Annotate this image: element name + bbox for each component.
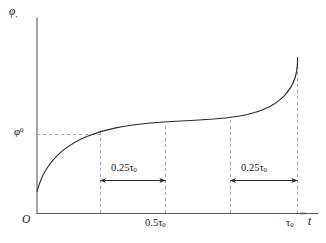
y-axis-title: φ, <box>9 6 17 19</box>
y-axis-title-sub: , <box>15 11 17 19</box>
y-tick-phi0-sup: 0 <box>20 126 23 133</box>
x-tick-half-sub: 0 <box>162 221 165 228</box>
span-label-1-base: 0.25τ <box>111 162 134 173</box>
guide-lines <box>37 57 298 213</box>
plot-canvas <box>0 0 326 243</box>
x-tick-label-half-tau0: 0.5τ0 <box>145 218 166 229</box>
figure-root: φ, φ0 O 0.5τ0 τ0 t 0.25τ0 0.25τ0 <box>0 0 326 243</box>
x-tick-label-tau0: τ0 <box>286 218 294 229</box>
x-tick-half-base: 0.5τ <box>145 217 162 228</box>
span-label-first-quarter: 0.25τ0 <box>111 163 137 174</box>
span-label-last-quarter: 0.25τ0 <box>241 163 267 174</box>
span-label-1-sub: 0 <box>134 166 137 173</box>
span-label-2-sub: 0 <box>264 166 267 173</box>
y-tick-label-phi0: φ0 <box>14 126 24 137</box>
axis-lines <box>37 18 318 214</box>
span-label-2-base: 0.25τ <box>241 162 264 173</box>
x-axis-title: t <box>308 216 311 228</box>
origin-label: O <box>22 214 30 226</box>
x-tick-tau0-sub: 0 <box>290 221 293 228</box>
